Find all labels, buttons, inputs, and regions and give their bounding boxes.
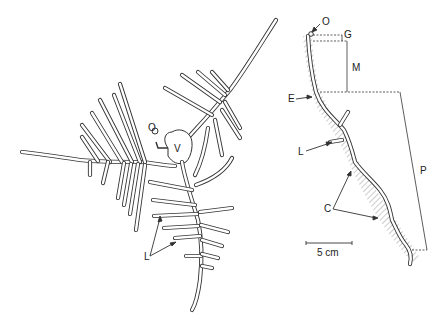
label-P: P [420, 166, 427, 176]
vestibule-chamber [152, 128, 192, 164]
label-G: G [344, 30, 352, 40]
burrow-section [296, 24, 427, 264]
burrow-plan [22, 20, 276, 310]
label-opening-section: O [322, 17, 330, 27]
scale-bar [306, 241, 352, 245]
label-vestibule: V [174, 144, 181, 154]
burrow-diagram: O V L O G M E L P C 5 cm [0, 0, 444, 326]
label-C: C [324, 204, 331, 214]
label-lateral-section: L [298, 147, 304, 157]
label-M: M [352, 63, 360, 73]
scale-bar-label: 5 cm [317, 248, 339, 258]
plan-view-drawing [0, 0, 444, 326]
label-E: E [288, 94, 295, 104]
label-lateral-plan: L [144, 252, 150, 262]
lateral-pointer-arrows [150, 216, 176, 256]
label-opening-plan: O [148, 123, 156, 133]
